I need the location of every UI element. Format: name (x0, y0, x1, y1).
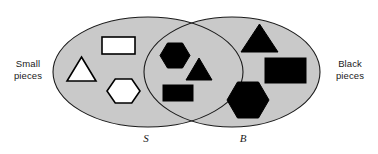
piece-black-rectangle-large (265, 58, 306, 83)
venn-diagram-canvas (0, 0, 378, 154)
piece-white-rectangle-small (102, 37, 135, 54)
venn-diagram-figure: Small pieces Black pieces S B (0, 0, 378, 154)
piece-white-hexagon-small (107, 79, 140, 103)
label-black-pieces: Black pieces (324, 58, 376, 82)
label-small-pieces: Small pieces (3, 58, 53, 82)
set-label-s: S (136, 132, 156, 144)
set-label-b: B (233, 132, 253, 144)
piece-black-rectangle-small (163, 85, 193, 101)
